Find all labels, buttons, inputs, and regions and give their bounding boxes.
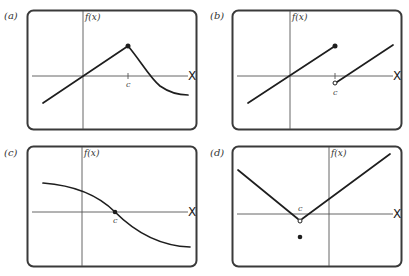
figure-canvas: (a) f(x) X c (b) f(x) X c (c) f(x) X c [0,0,409,276]
filled-point-b [333,44,338,49]
c-label-b: c [333,88,338,97]
y-axis-label-d: f(x) [330,148,347,158]
c-label-a: c [126,80,131,89]
left-branch-d [238,170,298,219]
panel-label-a: (a) [4,10,18,21]
panel-frame-a [28,11,197,130]
panel-label-c: (c) [4,147,18,158]
y-axis-label-a: f(x) [84,12,101,22]
open-circle-d [298,219,302,223]
line-segment-a [43,46,128,103]
panel-b: (b) f(x) X c [210,10,402,130]
y-axis-label-b: f(x) [291,12,308,22]
y-axis-label-c: f(x) [83,148,100,158]
smooth-curve-c [43,183,190,247]
filled-point-a [126,44,131,49]
x-axis-label-c: X [188,205,196,219]
panel-frame-c [28,147,197,267]
c-label-c: c [113,216,118,225]
x-axis-label-a: X [188,69,196,83]
decay-curve-a [128,46,188,95]
panel-c: (c) f(x) X c [4,147,197,267]
c-label-d: c [298,204,303,213]
panel-frame-b [233,11,402,130]
isolated-point-d [298,235,303,240]
x-axis-label-b: X [393,69,401,83]
panel-a: (a) f(x) X c [4,10,197,130]
right-branch-d [302,154,390,219]
left-segment-b [248,46,335,103]
panel-label-b: (b) [210,10,224,21]
panel-d: (d) f(x) X c [210,147,402,267]
filled-point-c [113,210,118,215]
open-circle-b [333,81,337,85]
x-axis-label-d: X [393,207,401,221]
panel-label-d: (d) [210,147,224,158]
